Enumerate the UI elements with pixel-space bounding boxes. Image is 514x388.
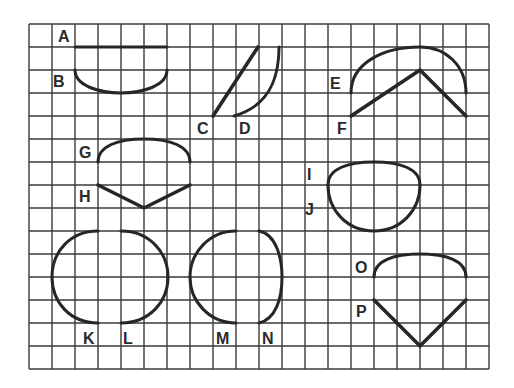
label-e: E — [330, 75, 341, 92]
grid-worksheet: A B C D E F G H I J K L M N O P — [0, 0, 514, 388]
label-p: P — [356, 303, 367, 320]
label-g: G — [79, 144, 91, 161]
label-c: C — [197, 120, 209, 137]
label-j: J — [305, 201, 314, 218]
label-d: D — [239, 120, 251, 137]
label-m: M — [216, 330, 229, 347]
label-h: H — [79, 188, 91, 205]
label-i: I — [307, 166, 311, 183]
label-n: N — [262, 330, 274, 347]
shape-d-curve — [234, 47, 279, 116]
label-f: F — [337, 120, 347, 137]
label-b: B — [53, 73, 65, 90]
label-o: O — [355, 259, 367, 276]
diagram-canvas: A B C D E F G H I J K L M N O P — [0, 0, 514, 388]
label-k: K — [83, 330, 95, 347]
label-a: A — [58, 28, 70, 45]
label-l: L — [123, 330, 133, 347]
